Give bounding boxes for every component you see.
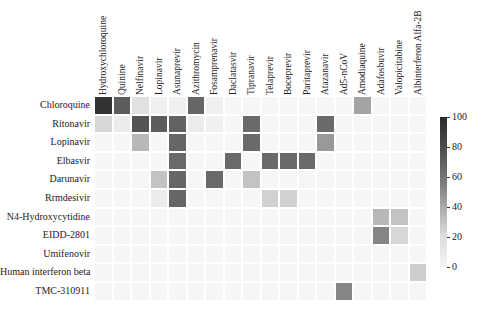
- heatmap-cell: [187, 263, 206, 282]
- heatmap-cell: [131, 263, 150, 282]
- column-label: Nelfinavir: [131, 0, 149, 95]
- heatmap-cell: [187, 96, 206, 115]
- heatmap-cell: [335, 245, 354, 264]
- heatmap-cell: [390, 208, 409, 227]
- heatmap-cell: [409, 189, 428, 208]
- heatmap-cell: [131, 152, 150, 171]
- heatmap-cell: [242, 208, 261, 227]
- heatmap-cell: [187, 208, 206, 227]
- heatmap-cell: [113, 226, 132, 245]
- heatmap-cell: [298, 226, 317, 245]
- colorbar-tick: 100: [447, 112, 467, 122]
- heatmap-cell: [261, 115, 280, 134]
- heatmap-cell: [224, 245, 243, 264]
- colorbar-tick: 60: [447, 172, 462, 182]
- heatmap-cell: [279, 208, 298, 227]
- heatmap-cell: [316, 226, 335, 245]
- colorbar-tick: 40: [447, 202, 462, 212]
- heatmap-cell: [353, 245, 372, 264]
- heatmap-cell: [94, 226, 113, 245]
- heatmap-cell: [409, 115, 428, 134]
- heatmap-cell: [279, 170, 298, 189]
- heatmap-cell: [224, 189, 243, 208]
- heatmap-cell: [390, 96, 409, 115]
- heatmap-cell: [372, 152, 391, 171]
- heatmap-cell: [242, 115, 261, 134]
- column-label: Telaprevir: [261, 0, 279, 95]
- heatmap-cell: [335, 115, 354, 134]
- heatmap-cell: [390, 133, 409, 152]
- heatmap-cell: [168, 133, 187, 152]
- heatmap-cell: [279, 189, 298, 208]
- column-label: Azithromycin: [187, 0, 205, 95]
- heatmap-cell: [390, 282, 409, 301]
- colorbar-tick: 80: [447, 142, 462, 152]
- heatmap-cell: [353, 170, 372, 189]
- heatmap-cell: [390, 115, 409, 134]
- column-label: Asunaprevir: [168, 0, 186, 95]
- heatmap-cell: [335, 282, 354, 301]
- heatmap-cell: [335, 263, 354, 282]
- heatmap-cell: [316, 208, 335, 227]
- column-label: Boceprevir: [279, 0, 297, 95]
- colorbar: [440, 117, 447, 267]
- heatmap-cell: [168, 189, 187, 208]
- heatmap-cell: [205, 282, 224, 301]
- heatmap-cell: [113, 133, 132, 152]
- heatmap-cell: [150, 170, 169, 189]
- heatmap-cell: [335, 208, 354, 227]
- heatmap-cell: [168, 282, 187, 301]
- heatmap-cell: [261, 263, 280, 282]
- heatmap-cell: [390, 245, 409, 264]
- heatmap-cell: [131, 245, 150, 264]
- heatmap-cell: [298, 208, 317, 227]
- column-label: Amodiaquine: [353, 0, 371, 95]
- heatmap-cell: [409, 263, 428, 282]
- heatmap-cell: [372, 208, 391, 227]
- heatmap-cell: [187, 245, 206, 264]
- heatmap-cell: [372, 245, 391, 264]
- heatmap-cell: [205, 263, 224, 282]
- heatmap-cell: [168, 170, 187, 189]
- heatmap-cell: [187, 170, 206, 189]
- heatmap-cell: [94, 263, 113, 282]
- heatmap-cell: [242, 152, 261, 171]
- heatmap-cell: [205, 170, 224, 189]
- heatmap-cell: [113, 96, 132, 115]
- heatmap-cell: [205, 208, 224, 227]
- heatmap-cell: [335, 170, 354, 189]
- row-label: TMC-310911: [0, 282, 90, 300]
- heatmap-cell: [409, 96, 428, 115]
- heatmap-cell: [298, 170, 317, 189]
- heatmap-cell: [261, 245, 280, 264]
- column-label: Valopicitabine: [390, 0, 408, 95]
- heatmap-cell: [298, 263, 317, 282]
- heatmap-cell: [353, 96, 372, 115]
- heatmap-cell: [261, 152, 280, 171]
- heatmap-cell: [150, 152, 169, 171]
- heatmap-cell: [242, 282, 261, 301]
- heatmap-cell: [131, 96, 150, 115]
- heatmap-cell: [242, 133, 261, 152]
- row-label: Human interferon beta: [0, 263, 90, 281]
- column-label: Lopinavir: [150, 0, 168, 95]
- heatmap-cell: [224, 152, 243, 171]
- heatmap-cell: [261, 189, 280, 208]
- heatmap-cell: [298, 189, 317, 208]
- heatmap-cell: [390, 170, 409, 189]
- heatmap-cell: [242, 170, 261, 189]
- heatmap-cell: [150, 226, 169, 245]
- heatmap-cell: [316, 245, 335, 264]
- heatmap-cell: [279, 115, 298, 134]
- heatmap-cell: [353, 115, 372, 134]
- colorbar-tick: 0: [447, 262, 457, 272]
- heatmap-cell: [409, 245, 428, 264]
- heatmap-cell: [335, 152, 354, 171]
- heatmap-cell: [94, 245, 113, 264]
- column-label: Adafosbuvir: [372, 0, 390, 95]
- heatmap-cell: [316, 170, 335, 189]
- heatmap-cell: [279, 226, 298, 245]
- column-label: Quinine: [113, 0, 131, 95]
- heatmap-cell: [353, 133, 372, 152]
- row-label: N4-Hydroxycytidine: [0, 208, 90, 226]
